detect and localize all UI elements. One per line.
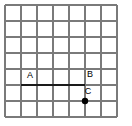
figure-background [0, 0, 132, 126]
label-c: C [85, 86, 92, 96]
point-c [82, 98, 88, 104]
point-layer [82, 98, 88, 104]
grid-figure: ABC [0, 0, 132, 126]
label-b: B [87, 69, 93, 79]
label-a: A [27, 70, 33, 80]
figure-svg: ABC [0, 0, 132, 126]
